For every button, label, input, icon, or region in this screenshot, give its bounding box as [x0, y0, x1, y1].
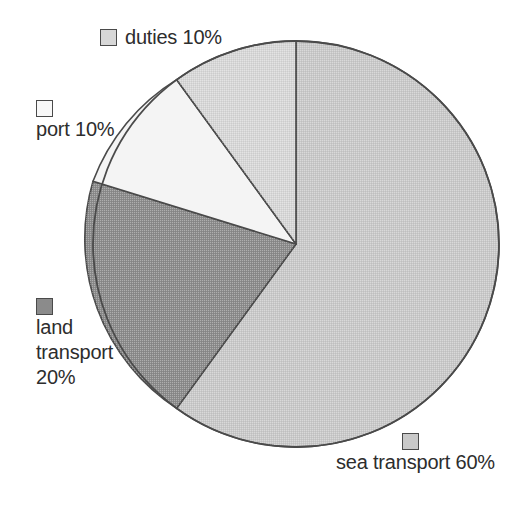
port-swatch — [36, 100, 53, 117]
duties-swatch — [100, 29, 117, 46]
pie-slices — [85, 41, 499, 447]
legend-item-sea-transport[interactable]: sea transport 60% — [402, 433, 495, 475]
sea-transport-swatch — [402, 433, 419, 450]
legend-label-sea-transport: sea transport 60% — [336, 451, 495, 473]
legend-label-duties: duties 10% — [125, 25, 222, 50]
land-transport-swatch — [36, 298, 53, 315]
legend-label-land-transport: land transport 20% — [36, 316, 113, 388]
legend-label-port: port 10% — [36, 118, 114, 140]
legend-item-duties[interactable]: duties 10% — [100, 25, 222, 50]
pie-chart-graphic — [0, 0, 523, 508]
legend-item-land-transport[interactable]: land transport 20% — [36, 298, 113, 390]
legend-item-port[interactable]: port 10% — [36, 100, 114, 142]
pie-chart: duties 10% port 10% land transport 20% s… — [0, 0, 523, 508]
